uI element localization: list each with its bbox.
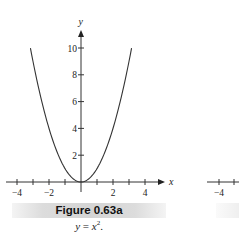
- caption-banner-partial: [216, 203, 239, 218]
- parabola-plot: x y −4−224 246810 −4: [0, 0, 239, 200]
- y-axis-arrow-icon: [78, 30, 84, 37]
- y-tick-label: 8: [72, 70, 77, 80]
- caption-equals: =: [80, 220, 92, 232]
- x-axis-arrow-icon: [158, 179, 165, 185]
- figure-0-63a: x y −4−224 246810 −4 Figure 0.63a y = x2…: [0, 0, 239, 237]
- y-tick-label: 10: [68, 44, 78, 54]
- caption-period: .: [100, 220, 103, 232]
- x-axis-label: x: [168, 176, 174, 187]
- x-tick-label: 2: [111, 188, 116, 198]
- y-axis-label: y: [78, 16, 84, 27]
- figure-caption: y = x2.: [12, 219, 166, 233]
- y-ticks: 246810: [68, 44, 85, 161]
- x-tick-label: −2: [44, 188, 54, 198]
- figure-label: Figure 0.63a: [12, 203, 166, 218]
- x-tick-label: 4: [143, 188, 148, 198]
- partial-tick-label: −4: [214, 188, 224, 198]
- x-tick-label: −4: [12, 188, 22, 198]
- partial-right-figure: −4: [207, 179, 239, 198]
- y-tick-label: 2: [72, 151, 77, 161]
- y-tick-label: 4: [72, 124, 77, 134]
- y-tick-label: 6: [72, 97, 77, 107]
